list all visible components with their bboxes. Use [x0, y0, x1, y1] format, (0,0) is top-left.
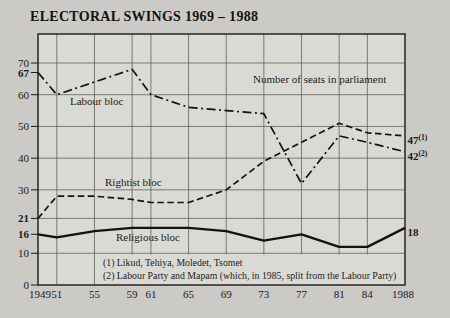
end-value-footnote-sup: (2)	[419, 149, 428, 158]
x-axis-label: 77	[296, 288, 308, 300]
y-axis-label: 67	[18, 67, 30, 79]
y-axis-label: 21	[18, 212, 29, 224]
end-value-footnote-sup: (1)	[419, 133, 428, 142]
y-axis-label: 16	[18, 228, 30, 240]
x-axis-label: 51	[51, 288, 62, 300]
x-axis-label: 69	[221, 288, 233, 300]
religious-bloc-label: Religious bloc	[116, 231, 180, 243]
x-axis-label: 65	[183, 288, 195, 300]
x-axis-label: 1988	[392, 288, 415, 300]
seats-annotation: Number of seats in parliament	[253, 73, 386, 85]
y-axis-label: 50	[18, 120, 30, 132]
footnote-2: (2) Labour Party and Mapam (which, in 19…	[103, 270, 396, 282]
rightist-bloc-label: Rightist bloc	[105, 176, 162, 188]
electoral-swings-chart: 7067605040302116100 19495155596165697377…	[0, 0, 450, 318]
series-end-value-labels: 42(2)47(1)18	[408, 133, 428, 238]
scanned-chart-page: ELECTORAL SWINGS 1969 – 1988 70676050403…	[0, 0, 450, 318]
y-axis: 7067605040302116100	[18, 57, 38, 291]
x-axis: 1949515559616569737781841988	[29, 288, 415, 300]
x-axis-label: 59	[127, 288, 139, 300]
x-axis-label: 73	[258, 288, 270, 300]
end-value-label: 18	[408, 226, 420, 238]
x-axis-label: 1949	[29, 288, 52, 300]
x-axis-label: 55	[89, 288, 101, 300]
x-axis-label: 61	[145, 288, 156, 300]
y-axis-label: 40	[18, 152, 30, 164]
footnote-1: (1) Likud, Tehiya, Moledet, Tsomet	[103, 257, 243, 269]
y-axis-label: 30	[18, 184, 30, 196]
x-axis-label: 81	[334, 288, 345, 300]
y-axis-label: 60	[18, 89, 30, 101]
end-value-label: 42(2)	[408, 149, 428, 163]
x-axis-label: 84	[362, 288, 374, 300]
labour-bloc-label: Labour bloc	[70, 95, 124, 107]
y-axis-label: 10	[18, 247, 30, 259]
end-value-label: 47(1)	[408, 133, 428, 147]
